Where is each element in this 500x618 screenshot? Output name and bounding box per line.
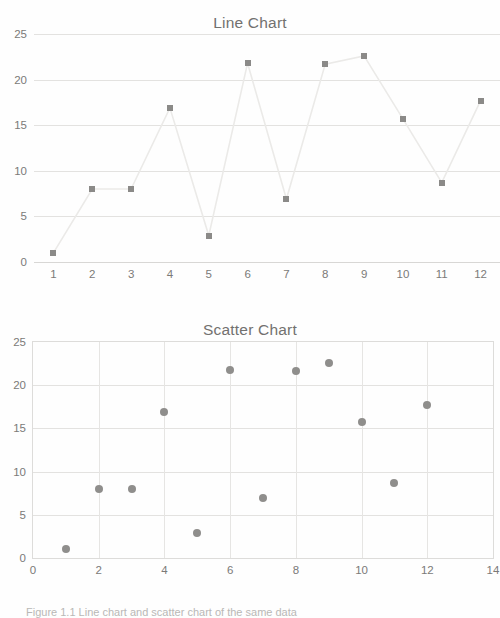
line-chart-xtick-label: 1	[50, 268, 56, 280]
scatter-chart-xtick-label: 10	[355, 564, 368, 576]
scatter-chart-gridline-vertical	[362, 342, 363, 558]
line-chart-data-point	[206, 233, 212, 239]
scatter-chart-data-point	[325, 359, 333, 367]
line-chart: Line Chart 0510152025123456789101112	[0, 0, 500, 312]
line-chart-data-point	[128, 186, 134, 192]
scatter-chart-gridline-vertical	[164, 342, 165, 558]
scatter-chart-xtick-label: 12	[421, 564, 434, 576]
line-chart-gridline	[34, 216, 500, 217]
line-chart-xtick-label: 2	[89, 268, 95, 280]
scatter-chart-plot-wrap: 051015202502468101214	[32, 341, 494, 559]
line-chart-x-axis	[34, 262, 500, 263]
line-chart-ytick-label: 10	[14, 165, 27, 177]
scatter-chart-data-point	[193, 529, 201, 537]
scatter-chart-data-point	[95, 485, 103, 493]
line-chart-plot-area: 0510152025123456789101112	[34, 34, 500, 262]
line-chart-xtick-label: 8	[322, 268, 328, 280]
line-chart-data-point	[245, 60, 251, 66]
scatter-chart-gridline-vertical	[99, 342, 100, 558]
line-chart-data-point	[400, 116, 406, 122]
line-chart-ytick-label: 25	[14, 28, 27, 40]
scatter-chart-title: Scatter Chart	[0, 312, 500, 341]
figure-caption: Figure 1.1 Line chart and scatter chart …	[26, 606, 486, 618]
line-chart-data-point	[50, 250, 56, 256]
line-chart-gridline	[34, 125, 500, 126]
line-chart-data-point	[478, 98, 484, 104]
scatter-chart-xtick-label: 0	[30, 564, 36, 576]
scatter-chart: Scatter Chart 051015202502468101214	[0, 312, 500, 602]
scatter-chart-data-point	[259, 494, 267, 502]
scatter-chart-gridline-vertical	[427, 342, 428, 558]
line-chart-xtick-label: 12	[474, 268, 487, 280]
line-chart-plot-wrap: 0510152025123456789101112	[34, 34, 500, 262]
document-page: Line Chart 0510152025123456789101112 Sca…	[0, 0, 500, 618]
line-chart-gridline	[34, 171, 500, 172]
scatter-chart-data-point	[226, 366, 234, 374]
line-chart-xtick-label: 11	[436, 268, 448, 280]
scatter-chart-data-point	[160, 408, 168, 416]
line-chart-ytick-label: 5	[21, 210, 27, 222]
line-chart-xtick-label: 5	[206, 268, 212, 280]
scatter-chart-ytick-label: 10	[13, 466, 26, 478]
line-chart-data-point	[167, 105, 173, 111]
line-chart-xtick-label: 6	[244, 268, 250, 280]
scatter-chart-xtick-label: 4	[161, 564, 167, 576]
line-chart-xtick-label: 7	[283, 268, 289, 280]
line-chart-gridline	[34, 34, 500, 35]
line-chart-data-point	[283, 196, 289, 202]
line-chart-series-path	[34, 34, 500, 262]
scatter-chart-gridline-horizontal	[33, 428, 493, 429]
scatter-chart-gridline-horizontal	[33, 472, 493, 473]
scatter-chart-ytick-label: 20	[13, 379, 26, 391]
scatter-chart-xtick-label: 6	[227, 564, 233, 576]
line-chart-data-point	[361, 53, 367, 59]
scatter-chart-data-point	[423, 401, 431, 409]
scatter-chart-ytick-label: 15	[13, 422, 26, 434]
line-chart-xtick-label: 3	[128, 268, 134, 280]
line-chart-ytick-label: 15	[14, 119, 27, 131]
scatter-chart-xtick-label: 14	[487, 564, 500, 576]
line-chart-xtick-label: 10	[397, 268, 410, 280]
scatter-chart-ytick-label: 5	[20, 509, 26, 521]
scatter-chart-data-point	[62, 545, 70, 553]
line-chart-data-point	[439, 180, 445, 186]
scatter-chart-plot-area: 051015202502468101214	[32, 341, 494, 559]
line-chart-data-point	[89, 186, 95, 192]
line-chart-xtick-label: 4	[167, 268, 173, 280]
scatter-chart-data-point	[358, 418, 366, 426]
line-chart-data-point	[322, 61, 328, 67]
line-chart-xtick-label: 9	[361, 268, 367, 280]
line-chart-title: Line Chart	[0, 0, 500, 34]
scatter-chart-data-point	[292, 367, 300, 375]
scatter-chart-gridline-horizontal	[33, 515, 493, 516]
line-chart-ytick-label: 20	[14, 74, 27, 86]
scatter-chart-data-point	[390, 479, 398, 487]
line-chart-ytick-label: 0	[21, 256, 27, 268]
scatter-chart-ytick-label: 25	[13, 336, 26, 348]
scatter-chart-xtick-label: 2	[96, 564, 102, 576]
scatter-chart-data-point	[128, 485, 136, 493]
scatter-chart-gridline-vertical	[230, 342, 231, 558]
scatter-chart-ytick-label: 0	[20, 552, 26, 564]
line-chart-gridline	[34, 80, 500, 81]
scatter-chart-xtick-label: 8	[293, 564, 299, 576]
scatter-chart-gridline-horizontal	[33, 385, 493, 386]
